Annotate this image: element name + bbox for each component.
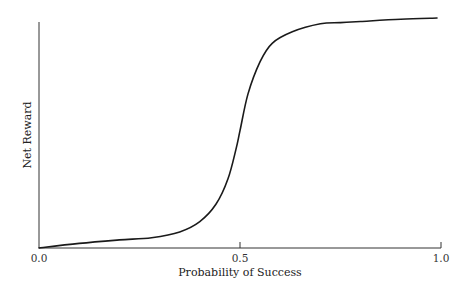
x-tick-label: 0.0 [31, 252, 48, 264]
x-ticks: 0.00.51.0 [31, 242, 450, 264]
net-reward-curve [39, 18, 437, 248]
y-axis-label: Net Reward [21, 101, 34, 168]
chart: 0.00.51.0 Probability of Success Net Rew… [0, 0, 469, 290]
x-tick-label: 0.5 [232, 252, 249, 264]
axes: 0.00.51.0 [31, 22, 450, 264]
x-tick-label: 1.0 [433, 252, 450, 264]
x-axis-label: Probability of Success [178, 266, 302, 279]
